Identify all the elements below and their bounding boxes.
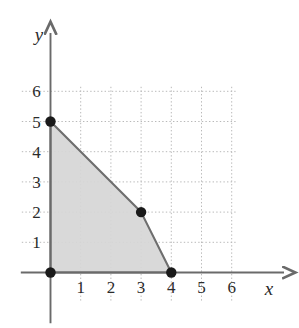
x-tick-label: 4: [167, 278, 176, 297]
y-tick-label: 3: [32, 173, 41, 192]
vertex-point: [136, 207, 146, 217]
y-tick-label: 5: [32, 113, 41, 132]
vertex-point: [45, 267, 55, 277]
vertex-point: [45, 116, 55, 126]
figure-background: [0, 0, 299, 328]
y-tick-label: 1: [32, 233, 41, 252]
coordinate-plane-svg: 123456 123456 x y: [0, 0, 299, 328]
y-axis-label: y: [33, 24, 44, 45]
x-tick-label: 1: [76, 278, 85, 297]
x-tick-label: 6: [227, 278, 236, 297]
y-tick-label: 4: [32, 143, 41, 162]
x-tick-label: 3: [137, 278, 146, 297]
x-tick-label: 5: [197, 278, 206, 297]
x-tick-label: 2: [107, 278, 116, 297]
graph-figure: 123456 123456 x y: [0, 0, 299, 328]
y-tick-label: 6: [32, 82, 41, 101]
vertex-point: [166, 267, 176, 277]
y-tick-label: 2: [32, 203, 41, 222]
x-axis-label: x: [264, 278, 274, 299]
